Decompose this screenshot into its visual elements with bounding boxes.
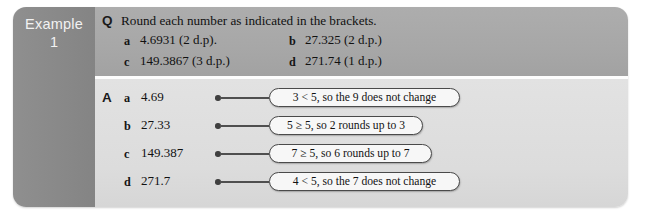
callout-connector-line-c: [220, 153, 269, 155]
worksheet-page: Example 1 Q Round each number as indicat…: [0, 0, 647, 220]
answer-panel: A a 4.69 3 < 5, so the 9 does not change…: [95, 79, 628, 207]
question-marker: Q: [102, 13, 113, 28]
callout-bubble-b: 5 ≥ 5, so 2 rounds up to 3: [269, 116, 423, 135]
callout-bubble-c: 7 ≥ 5, so 6 rounds up to 7: [269, 144, 432, 163]
question-item-letter-a: a: [124, 34, 130, 49]
callout-connector-line-a: [220, 97, 269, 99]
question-item-letter-d: d: [289, 55, 296, 70]
example-card: Example 1 Q Round each number as indicat…: [13, 7, 628, 207]
callout-connector-line-b: [220, 125, 269, 127]
question-item-text-b: 27.325 (2 d.p.): [305, 32, 382, 48]
question-item-text-c: 149.3867 (3 d.p.): [140, 53, 230, 69]
example-tab: Example 1: [13, 7, 95, 207]
answer-item-letter-a: a: [124, 91, 130, 106]
callout-bubble-d: 4 < 5, so the 7 does not change: [269, 172, 460, 191]
question-panel: Q Round each number as indicated in the …: [95, 7, 628, 76]
question-item-letter-c: c: [124, 55, 129, 70]
question-prompt: Round each number as indicated in the br…: [121, 13, 377, 29]
callout-connector-line-d: [220, 181, 269, 183]
example-tab-number: 1: [50, 33, 58, 52]
answer-marker: A: [102, 90, 112, 105]
answer-item-text-a: 4.69: [141, 89, 164, 105]
answer-item-letter-d: d: [124, 175, 131, 190]
answer-item-text-c: 149.387: [141, 145, 183, 161]
callout-bubble-a: 3 < 5, so the 9 does not change: [269, 88, 460, 107]
answer-item-text-d: 271.7: [141, 173, 170, 189]
answer-item-letter-b: b: [124, 119, 131, 134]
answer-item-letter-c: c: [124, 147, 129, 162]
example-tab-label: Example: [25, 16, 83, 33]
question-item-letter-b: b: [289, 34, 296, 49]
question-item-text-a: 4.6931 (2 d.p).: [140, 32, 217, 48]
question-item-text-d: 271.74 (1 d.p.): [305, 53, 382, 69]
answer-item-text-b: 27.33: [141, 117, 170, 133]
